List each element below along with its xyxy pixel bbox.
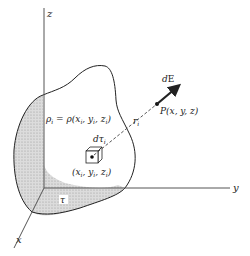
volume-element-label: dτi [93, 134, 106, 145]
field-vector-label: dE [162, 74, 174, 84]
separation-line [94, 104, 157, 155]
z-axis-label: z [46, 8, 53, 19]
y-axis-label: y [232, 182, 239, 193]
charge-distribution-diagram: z y x ρi = ρ(xi, yi, zi) dτi (xi, yi, zi… [0, 0, 250, 256]
svg-text:ρi = ρ(xi, yi, zi): ρi = ρ(xi, yi, zi) [45, 114, 111, 125]
bottom-face-shading [32, 188, 125, 214]
density-label: ρi = ρ(xi, yi, zi) [45, 114, 111, 125]
source-point-dot [90, 155, 94, 159]
field-vector-arrow [157, 88, 176, 104]
field-point-label: P(x, y, z) [159, 106, 199, 116]
separation-label: ri [133, 116, 139, 127]
x-axis-label: x [16, 234, 22, 245]
source-point-label: (xi, yi, zi) [72, 167, 112, 178]
